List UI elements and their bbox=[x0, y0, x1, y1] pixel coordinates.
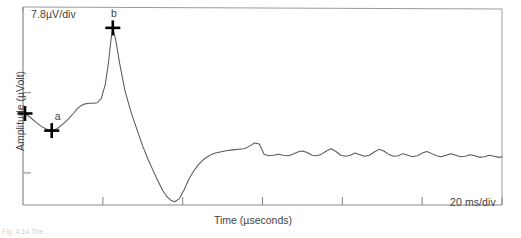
cursor-cross-icon bbox=[44, 123, 59, 138]
vertical-scale-label: 7.8µV/div bbox=[31, 8, 76, 20]
waveform-plot: ab bbox=[0, 0, 521, 238]
figure-caption: Fig. 4.14 The bbox=[2, 228, 43, 235]
x-axis-title: Time (µseconds) bbox=[214, 214, 292, 226]
plot-frame bbox=[23, 7, 502, 205]
figure-container: ab 7.8µV/div 20 ms/div Time (µseconds) A… bbox=[0, 0, 521, 238]
waveform-trace bbox=[25, 28, 502, 202]
horizontal-scale-label: 20 ms/div bbox=[450, 196, 496, 208]
marker-label-b: b bbox=[111, 7, 117, 19]
marker-label-a: a bbox=[55, 110, 61, 122]
x-axis-ticks bbox=[103, 197, 502, 205]
y-axis-title: Amplitude (µVolt) bbox=[14, 51, 26, 171]
cursor-cross-icon bbox=[105, 20, 120, 35]
